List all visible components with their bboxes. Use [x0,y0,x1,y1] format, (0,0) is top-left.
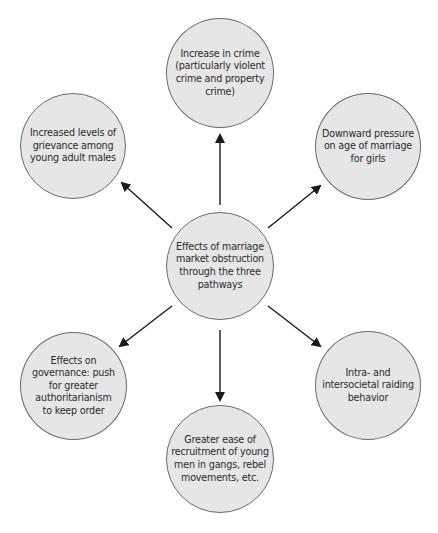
arrow-to-top-left [122,183,172,228]
outcome-label-recruitment: Greater ease of recruitment of young men… [171,434,269,484]
center-node: Effects of marriage market obstruction t… [166,212,274,320]
outcome-label-grievance: Increased levels of grievance among youn… [30,127,116,165]
outcome-node-recruitment: Greater ease of recruitment of young men… [166,405,274,513]
outcome-node-marriage-age: Downward pressure on age of marriage for… [315,93,421,200]
outcome-node-raiding: Intra- and intersocietal raiding behavio… [315,331,421,440]
arrow-to-bottom-right [268,306,320,346]
outcome-node-crime: Increase in crime (particularly violent … [166,18,274,128]
outcome-label-marriage-age: Downward pressure on age of marriage for… [322,128,414,166]
center-node-label: Effects of marriage market obstruction t… [176,241,264,291]
marriage-market-effects-diagram: Effects of marriage market obstruction t… [0,0,438,533]
outcome-label-crime: Increase in crime (particularly violent … [175,48,265,98]
outcome-node-grievance: Increased levels of grievance among youn… [20,93,126,199]
outcome-label-governance: Effects on governance: push for greater … [32,355,115,418]
outcome-node-governance: Effects on governance: push for greater … [20,332,127,440]
outcome-label-raiding: Intra- and intersocietal raiding behavio… [322,367,414,405]
arrow-to-top-right [268,186,320,228]
arrow-to-bottom-left [120,306,172,346]
